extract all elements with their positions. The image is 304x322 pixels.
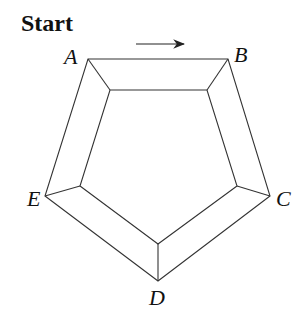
label-B: B: [234, 42, 247, 68]
pentagon-frame-diagram: [0, 0, 304, 322]
label-C: C: [276, 186, 291, 212]
inner-pentagon: [80, 90, 237, 244]
edge-B: [207, 59, 228, 90]
edge-C: [237, 186, 270, 196]
label-D: D: [149, 285, 165, 311]
label-E: E: [27, 186, 40, 212]
label-A: A: [64, 44, 77, 70]
edge-A: [88, 59, 110, 90]
edge-E: [45, 186, 80, 196]
